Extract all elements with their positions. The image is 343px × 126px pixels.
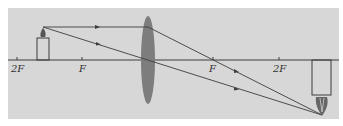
label-f-left: F	[78, 63, 87, 74]
diagram-background	[8, 8, 339, 119]
lens-ray-diagram: 2F F F 2F	[0, 0, 343, 126]
label-2f-left: 2F	[10, 63, 25, 74]
label-2f-right: 2F	[272, 63, 287, 74]
label-f-right: F	[208, 63, 217, 74]
